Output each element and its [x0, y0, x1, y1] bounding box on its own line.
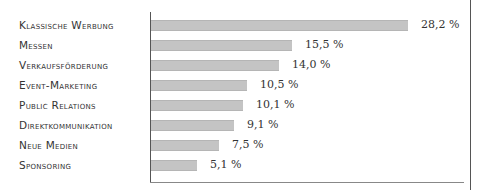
bar: [151, 120, 234, 131]
category-label: Neue Medien: [19, 139, 78, 151]
x-axis-line: [150, 182, 464, 183]
bar: [151, 20, 408, 31]
value-label: 9,1 %: [247, 118, 278, 131]
category-label: Klassische Werbung: [19, 19, 114, 31]
value-label: 10,5 %: [260, 78, 298, 91]
bar: [151, 80, 247, 91]
bar: [151, 160, 197, 171]
value-label: 14,0 %: [292, 58, 330, 71]
category-label: Verkaufsförderung: [19, 59, 108, 71]
category-label: Direktkommunikation: [19, 119, 112, 131]
bar-row: Event-Marketing10,5 %: [0, 76, 478, 96]
value-label: 10,1 %: [256, 98, 294, 111]
bar-row: Neue Medien7,5 %: [0, 136, 478, 156]
bar-row: Verkaufsförderung14,0 %: [0, 56, 478, 76]
bar-row: Klassische Werbung28,2 %: [0, 16, 478, 36]
category-label: Messen: [19, 39, 53, 51]
bar-row: Messen15,5 %: [0, 36, 478, 56]
category-label: Public Relations: [19, 99, 96, 111]
bar: [151, 60, 279, 71]
bar-row: Sponsoring5,1 %: [0, 156, 478, 176]
category-label: Sponsoring: [19, 159, 71, 171]
bar-row: Public Relations10,1 %: [0, 96, 478, 116]
value-label: 5,1 %: [210, 158, 241, 171]
bar-row: Direktkommunikation9,1 %: [0, 116, 478, 136]
bar: [151, 140, 219, 151]
bar: [151, 100, 243, 111]
category-label: Event-Marketing: [19, 79, 97, 91]
bar: [151, 40, 292, 51]
value-label: 15,5 %: [305, 38, 343, 51]
value-label: 7,5 %: [232, 138, 263, 151]
value-label: 28,2 %: [421, 18, 459, 31]
